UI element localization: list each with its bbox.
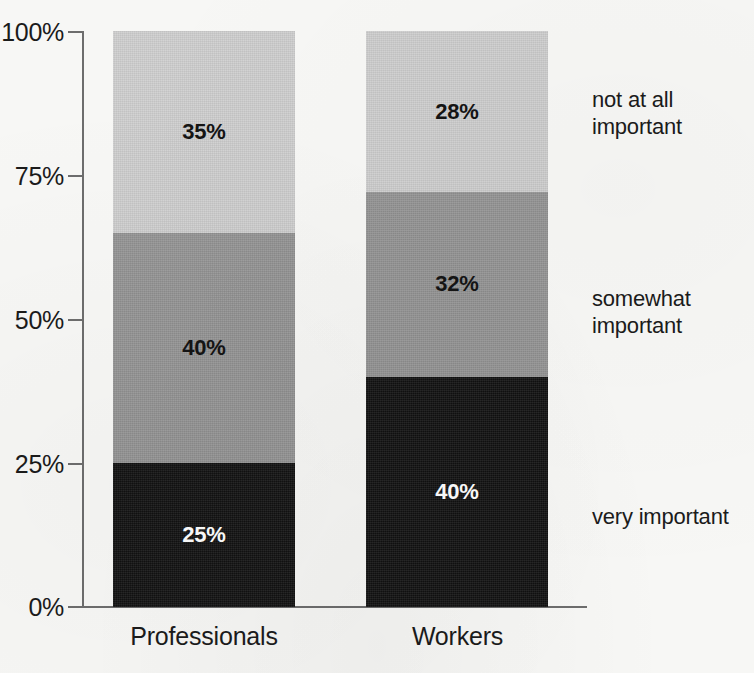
bar-segment-professionals-very-important[interactable]: 25% [113,463,295,607]
bar-workers[interactable]: 28% 32% 40% [366,31,548,607]
legend-label-somewhat-important: somewhat important [592,285,691,339]
bar-segment-workers-very-important[interactable]: 40% [366,377,548,607]
x-axis-category-professionals: Professionals [82,622,326,651]
y-axis-tick-50 [68,319,83,321]
bar-value-workers-not-at-all-important: 28% [435,99,478,125]
legend-label-not-at-all-important: not at all important [592,86,682,140]
legend-label-very-important: very important [592,503,729,530]
bar-value-workers-very-important: 40% [435,479,478,505]
x-axis-category-workers: Workers [340,622,575,651]
y-axis-label-0: 0% [0,593,64,622]
bar-value-professionals-very-important: 25% [182,522,225,548]
y-axis-tick-0 [68,606,83,608]
y-axis-label-100: 100% [0,18,64,47]
y-axis-tick-100 [68,31,83,33]
bar-segment-workers-somewhat-important[interactable]: 32% [366,192,548,376]
bar-professionals[interactable]: 35% 40% 25% [113,31,295,607]
bar-segment-professionals-somewhat-important[interactable]: 40% [113,233,295,463]
plot-area: 35% 40% 25% 28% 32% 40% [113,31,583,607]
bar-value-professionals-not-at-all-important: 35% [182,119,225,145]
y-axis-tick-25 [68,463,83,465]
y-axis-label-50: 50% [0,306,64,335]
bar-value-professionals-somewhat-important: 40% [182,335,225,361]
y-axis-label-25: 25% [0,450,64,479]
bar-segment-professionals-not-at-all-important[interactable]: 35% [113,31,295,233]
y-axis-tick-75 [68,175,83,177]
bar-value-workers-somewhat-important: 32% [435,271,478,297]
chart-page: 100% 75% 50% 25% 0% 35% 40% 25% 28% 32% [0,0,754,673]
y-axis-label-75: 75% [0,162,64,191]
bar-segment-workers-not-at-all-important[interactable]: 28% [366,31,548,192]
